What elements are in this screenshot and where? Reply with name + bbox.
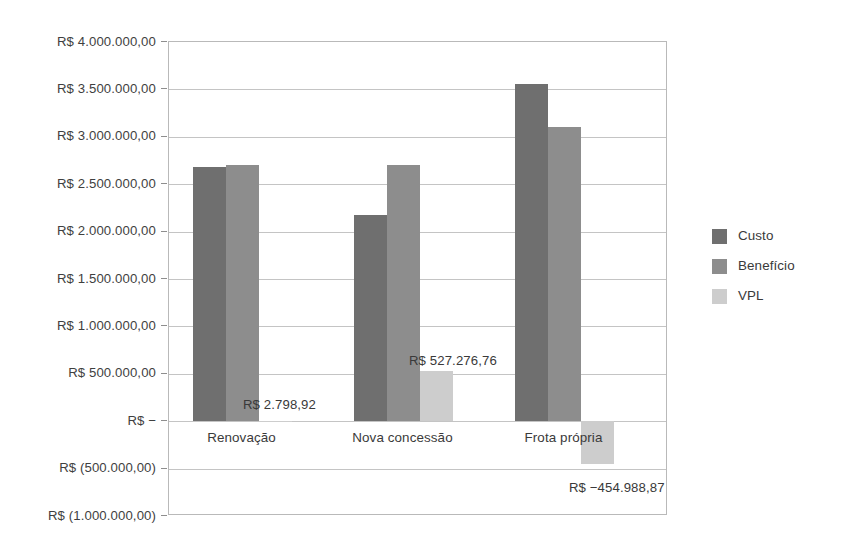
y-axis-tick-label: R$ 500.000,00 [0, 366, 156, 379]
legend-item-vpl[interactable]: VPL [712, 281, 837, 311]
y-axis-tick-label: R$ 1.500.000,00 [0, 272, 156, 285]
gridline [169, 469, 666, 470]
y-axis-tickmark [161, 325, 167, 326]
y-axis-tick-label: R$ 3.500.000,00 [0, 82, 156, 95]
bar-custo-1 [193, 167, 226, 421]
bar-benefcio-1 [226, 165, 259, 421]
y-axis-tickmark [161, 420, 167, 421]
gridline [169, 89, 666, 90]
legend-label: Benefício [738, 259, 795, 272]
y-axis-tick-label: R$ − [0, 414, 156, 427]
gridline [169, 137, 666, 138]
legend-item-custo[interactable]: Custo [712, 221, 837, 251]
data-label-vpl-1: R$ 2.798,92 [243, 398, 316, 411]
y-axis-tickmark [161, 136, 167, 137]
y-axis-tickmark [161, 468, 167, 469]
y-axis-tick-label: R$ 2.000.000,00 [0, 224, 156, 237]
legend-swatch-icon [712, 229, 727, 244]
y-axis-tickmark [161, 88, 167, 89]
bar-chart: R$ 4.000.000,00R$ 3.500.000,00R$ 3.000.0… [0, 0, 844, 551]
y-axis-tick-label: R$ 1.000.000,00 [0, 319, 156, 332]
bar-custo-2 [354, 215, 387, 421]
y-axis-tick-label: R$ 3.000.000,00 [0, 129, 156, 142]
bar-benefcio-2 [387, 165, 420, 421]
y-axis-tick-label: R$ (1.000.000,00) [0, 509, 156, 522]
chart-legend: CustoBenefícioVPL [712, 221, 837, 311]
y-axis-tickmark [161, 515, 167, 516]
bar-custo-3 [515, 84, 548, 421]
y-axis-tickmark [161, 231, 167, 232]
legend-label: VPL [738, 289, 764, 302]
bar-vpl-2 [420, 371, 453, 421]
y-axis-tick-label: R$ 4.000.000,00 [0, 35, 156, 48]
x-axis-label-2: Nova concessão [328, 431, 478, 444]
y-axis-tickmark [161, 373, 167, 374]
x-axis-label-1: Renovação [167, 431, 317, 444]
y-axis-tickmark [161, 278, 167, 279]
y-axis-tick-label: R$ (500.000,00) [0, 461, 156, 474]
data-label-vpl-2: R$ 527.276,76 [409, 354, 497, 367]
bar-benefcio-3 [548, 127, 581, 421]
y-axis-tickmark [161, 183, 167, 184]
y-axis-tick-label: R$ 2.500.000,00 [0, 177, 156, 190]
legend-item-benefcio[interactable]: Benefício [712, 251, 837, 281]
y-axis-labels: R$ 4.000.000,00R$ 3.500.000,00R$ 3.000.0… [0, 0, 156, 551]
legend-label: Custo [738, 229, 773, 242]
legend-swatch-icon [712, 289, 727, 304]
y-axis-tickmark [161, 41, 167, 42]
data-label-vpl-3: R$ −454.988,87 [569, 481, 665, 494]
x-axis-label-3: Frota própria [489, 431, 639, 444]
legend-swatch-icon [712, 259, 727, 274]
